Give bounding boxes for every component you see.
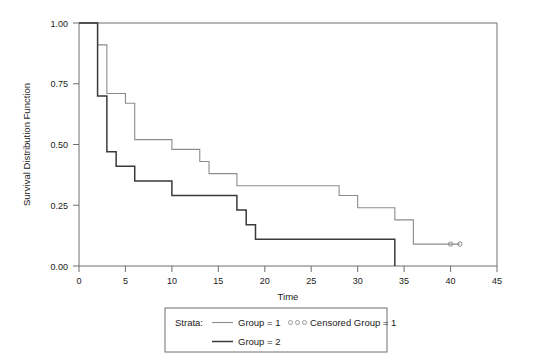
y-tick-label: 0.75 [50, 79, 68, 89]
survival-plot: 1.00 0.75 0.50 0.25 0.00 Survival Distri… [0, 0, 549, 364]
figure-background [0, 0, 549, 364]
x-tick-label: 30 [353, 276, 363, 286]
legend-strata-label: Strata: [175, 317, 203, 328]
y-tick-label: 0.00 [50, 262, 68, 272]
x-tick-label: 40 [446, 276, 456, 286]
legend-item-group-1: Group = 1 [238, 317, 281, 328]
x-tick-label: 35 [399, 276, 409, 286]
kaplan-meier-figure: 1.00 0.75 0.50 0.25 0.00 Survival Distri… [0, 0, 549, 364]
y-tick-label: 0.25 [50, 201, 68, 211]
x-tick-label: 5 [123, 276, 128, 286]
legend-item-censored-group-1: Censored Group = 1 [310, 317, 396, 328]
x-tick-label: 0 [76, 276, 81, 286]
x-tick-label: 15 [213, 276, 223, 286]
x-tick-label: 45 [492, 276, 502, 286]
x-tick-label: 20 [260, 276, 270, 286]
x-tick-label: 25 [306, 276, 316, 286]
legend-item-group-2: Group = 2 [238, 336, 281, 347]
y-axis-title: Survival Distribution Function [21, 83, 32, 206]
x-axis-title: Time [278, 291, 299, 302]
y-tick-label: 1.00 [50, 19, 68, 29]
y-tick-label: 0.50 [50, 140, 68, 150]
x-tick-label: 10 [167, 276, 177, 286]
